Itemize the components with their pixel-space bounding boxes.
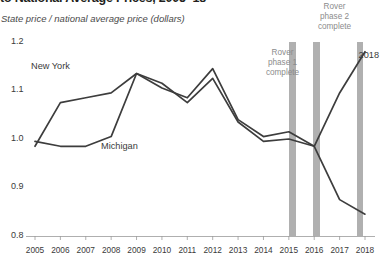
plot-area [0,0,383,259]
chart-figure: to National Average Prices, 2005–18 Stat… [0,0,383,259]
xtick-2018: 2018 [350,245,380,255]
series-line-new-york [35,52,365,147]
